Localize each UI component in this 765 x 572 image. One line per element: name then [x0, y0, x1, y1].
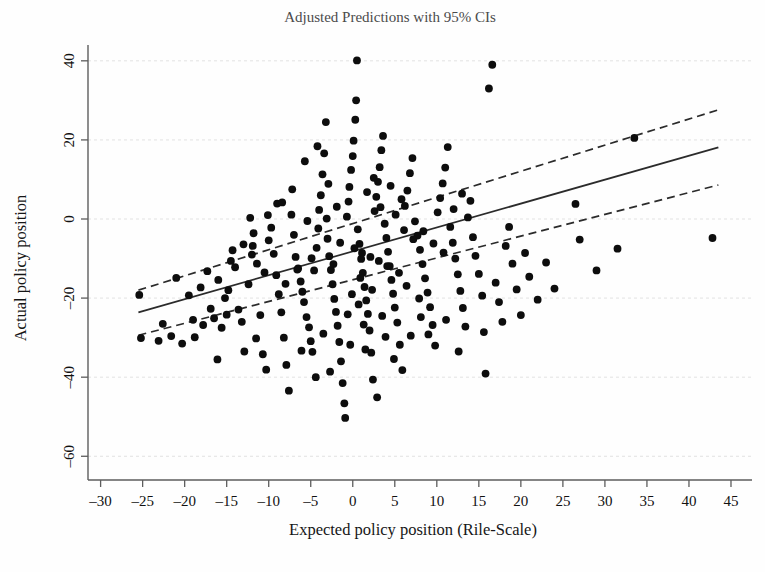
data-point — [265, 236, 273, 244]
data-point — [464, 214, 472, 222]
data-point — [454, 270, 462, 278]
data-point — [314, 142, 322, 150]
data-point — [332, 308, 340, 316]
data-point — [346, 183, 354, 191]
data-point — [478, 292, 486, 300]
data-point — [472, 252, 480, 260]
data-point — [343, 213, 351, 221]
data-point — [238, 318, 246, 326]
x-tick-label--15: –15 — [214, 493, 238, 509]
x-tick-label-10: 10 — [429, 493, 444, 509]
data-point — [272, 271, 280, 279]
data-point — [398, 366, 406, 374]
data-point — [218, 324, 226, 332]
data-point — [336, 239, 344, 247]
data-point — [288, 185, 296, 193]
data-point — [349, 152, 357, 160]
data-point — [411, 217, 419, 225]
data-point — [367, 253, 375, 261]
data-point — [495, 298, 503, 306]
data-point — [172, 274, 180, 282]
data-point — [361, 346, 369, 354]
x-tick-label-30: 30 — [597, 493, 612, 509]
gridline-group — [88, 61, 752, 456]
data-point — [364, 310, 372, 318]
data-point — [614, 245, 622, 253]
data-point — [502, 242, 510, 250]
data-point — [227, 257, 235, 265]
data-point — [396, 341, 404, 349]
data-point — [387, 182, 395, 190]
data-point — [345, 198, 353, 206]
data-point — [377, 203, 385, 211]
data-point — [709, 234, 717, 242]
data-point — [229, 246, 237, 254]
data-point — [492, 279, 500, 287]
data-point — [298, 288, 306, 296]
x-tick-label-15: 15 — [471, 493, 486, 509]
data-point — [277, 308, 285, 316]
data-point — [348, 290, 356, 298]
data-point — [324, 180, 332, 188]
data-point — [137, 334, 145, 342]
data-point — [379, 132, 387, 140]
data-point — [630, 134, 638, 142]
data-point — [351, 244, 359, 252]
data-point — [442, 316, 450, 324]
data-point — [505, 223, 513, 231]
data-point — [517, 311, 525, 319]
data-point — [249, 242, 257, 250]
data-point — [434, 208, 442, 216]
data-point — [382, 333, 390, 341]
data-point — [350, 137, 358, 145]
data-point — [214, 355, 222, 363]
data-point — [388, 276, 396, 284]
data-point — [303, 217, 311, 225]
data-point — [392, 211, 400, 219]
data-point — [383, 262, 391, 270]
data-point — [572, 200, 580, 208]
data-point — [240, 348, 248, 356]
data-point — [347, 166, 355, 174]
data-point — [292, 253, 300, 261]
data-point — [398, 195, 406, 203]
data-point — [221, 294, 229, 302]
data-point — [329, 280, 337, 288]
data-point — [451, 255, 459, 263]
data-point — [250, 229, 258, 237]
data-point — [430, 240, 438, 248]
data-point — [189, 316, 197, 324]
data-point — [382, 234, 390, 242]
data-point — [298, 347, 306, 355]
data-point — [315, 206, 323, 214]
data-point — [319, 330, 327, 338]
data-point — [436, 194, 444, 202]
data-point — [415, 295, 423, 303]
data-point — [576, 236, 584, 244]
data-point — [409, 235, 417, 243]
data-point — [361, 283, 369, 291]
data-point — [346, 341, 354, 349]
data-point — [333, 203, 341, 211]
data-point — [326, 368, 334, 376]
data-point — [366, 327, 374, 335]
data-point — [300, 298, 308, 306]
data-point — [459, 304, 467, 312]
data-point — [167, 332, 175, 340]
data-point — [390, 355, 398, 363]
data-point — [297, 278, 305, 286]
data-point — [267, 224, 275, 232]
data-point — [259, 350, 267, 358]
data-point — [469, 233, 477, 241]
data-point — [253, 260, 261, 268]
prediction-fit-line — [138, 147, 718, 312]
data-point — [325, 252, 333, 260]
data-point — [341, 414, 349, 422]
data-point — [264, 211, 272, 219]
data-point — [285, 387, 293, 395]
data-point — [320, 149, 328, 157]
y-tick-label-0: 0 — [61, 215, 77, 223]
data-point — [290, 231, 298, 239]
data-point — [393, 319, 401, 327]
data-point-group — [135, 57, 716, 422]
